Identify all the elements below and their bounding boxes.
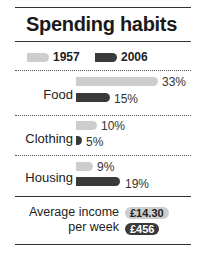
legend-swatch-2006 (95, 53, 117, 62)
income-label-line1: Average income (29, 205, 119, 220)
bar-housing-1957 (76, 162, 93, 171)
value-housing-1957: 9% (97, 160, 114, 174)
income-label-line2: per week (29, 220, 119, 235)
value-clothing-2006: 5% (86, 135, 103, 149)
value-housing-2006: 19% (125, 177, 149, 191)
legend-swatch-1957 (27, 53, 49, 62)
category-label-clothing: Clothing (25, 131, 73, 146)
value-food-2006: 15% (114, 92, 138, 106)
bottom-rule (15, 244, 191, 245)
category-label-food: Food (43, 87, 73, 102)
legend-label-1957: 1957 (53, 50, 80, 64)
bar-food-1957 (76, 77, 158, 86)
bar-food-2006 (76, 93, 110, 102)
divider (15, 115, 191, 116)
value-clothing-1957: 10% (101, 119, 125, 133)
income-1957-pill: £14.30 (125, 207, 169, 219)
legend-label-2006: 2006 (121, 50, 148, 64)
top-rule (15, 7, 191, 8)
chart-title: Spending habits (0, 13, 203, 36)
category-label-housing: Housing (25, 170, 73, 185)
legend-1957: 1957 (27, 50, 80, 64)
title-rule (15, 41, 191, 42)
value-food-1957: 33% (162, 75, 186, 89)
section-rule (15, 196, 191, 197)
bar-clothing-1957 (76, 121, 97, 130)
divider (15, 70, 191, 71)
income-label: Average income per week (29, 205, 119, 235)
legend-2006: 2006 (95, 50, 148, 64)
divider (15, 155, 191, 156)
income-2006-pill: £456 (125, 223, 159, 235)
bar-housing-2006 (76, 177, 120, 186)
bar-clothing-2006 (76, 136, 82, 145)
